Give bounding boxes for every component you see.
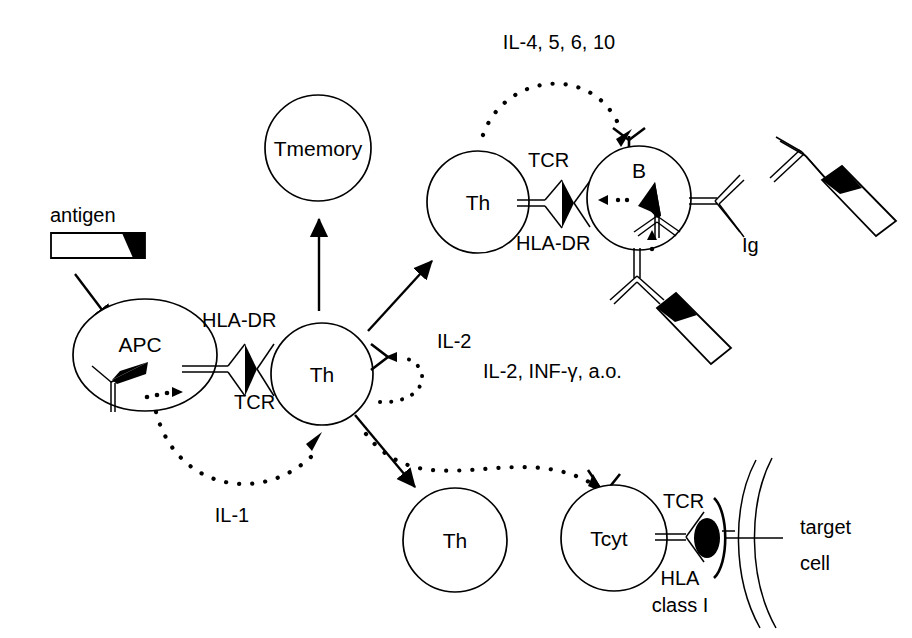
free-antibody-antigen-complex (770, 137, 896, 236)
target-membrane-inner (738, 460, 760, 628)
target-cell-line2: cell (800, 552, 830, 574)
diagram-canvas: antigen APC HLA-DR TCR (0, 0, 912, 638)
b-label: B (632, 159, 646, 182)
il2-infg-dotted-path (366, 434, 596, 486)
cell-th-upper: Th (427, 151, 529, 253)
tmemory-label: Tmemory (274, 137, 363, 160)
cell-tmemory: Tmemory (265, 95, 371, 201)
target-membrane-outer (754, 458, 776, 628)
il2-label: IL-2 (437, 330, 471, 352)
cell-th-lower: Th (403, 488, 507, 592)
tcr-th-b-label: TCR (528, 149, 569, 171)
cell-tcyt: Tcyt (561, 485, 667, 591)
cell-apc: APC (73, 299, 217, 412)
immune-response-diagram: antigen APC HLA-DR TCR (0, 0, 912, 638)
th-upper-label: Th (466, 191, 491, 214)
target-cell-line1: target (800, 516, 852, 538)
hla-class-i-line2: class I (652, 594, 709, 616)
free-antigen-icon (822, 166, 896, 236)
il4-dotted-path (483, 84, 620, 135)
cell-b: B (587, 146, 691, 251)
il2-loop: IL-2 (371, 330, 471, 402)
cell-th-center: Th (271, 323, 373, 425)
target-cell-membrane: target cell (738, 458, 851, 628)
b-surface-ig-right: Ig (689, 175, 759, 256)
th-lower-label: Th (443, 529, 468, 552)
hla-class-i-line1: HLA (661, 567, 701, 589)
ig-label: Ig (742, 234, 759, 256)
il4-loop: IL-4, 5, 6, 10 (483, 31, 645, 158)
bound-antigen-bottom-icon (657, 293, 731, 364)
il1-label: IL-1 (215, 504, 249, 526)
il1-loop: IL-1 (156, 412, 322, 526)
il4-label: IL-4, 5, 6, 10 (503, 31, 615, 53)
antigen-label: antigen (50, 204, 116, 226)
tcyt-label: Tcyt (590, 527, 628, 550)
antigen-bar-icon (51, 233, 145, 258)
hla-class-i-peptide (694, 518, 720, 558)
il1-arrowhead (306, 432, 322, 451)
il1-dotted-path (156, 412, 313, 484)
hla-dr-apc-label: HLA-DR (202, 309, 276, 331)
apc-label: APC (118, 333, 161, 356)
b-surface-ig-bottom (610, 248, 731, 364)
th-center-label: Th (310, 363, 335, 386)
il2-infg-label: IL-2, INF-γ, a.o. (483, 360, 622, 382)
hla-dr-b-label: HLA-DR (516, 232, 590, 254)
tcr-tcyt-label: TCR (663, 490, 704, 512)
tcr-apc-th-label: TCR (234, 391, 275, 413)
th-to-th-upper-arrow (368, 261, 432, 331)
il2-dotted-path (380, 357, 422, 402)
